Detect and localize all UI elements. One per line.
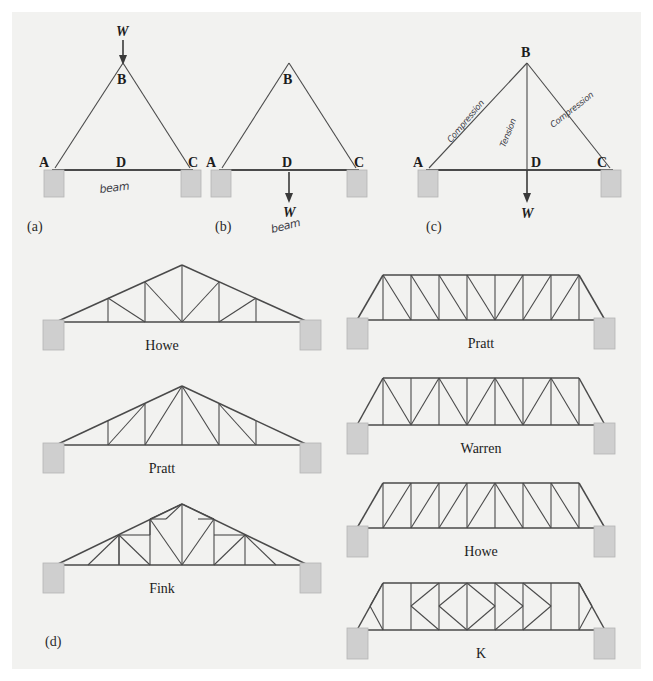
k-bridge-support-right — [594, 628, 615, 659]
panel-b: B A D C W beam (b) — [206, 63, 367, 236]
panel-a-label-a: A — [39, 155, 50, 170]
panel-c-load-arrow — [523, 170, 531, 203]
warren-bridge-label: Warren — [461, 441, 502, 456]
panel-b-label-d: D — [282, 155, 292, 170]
panel-c-support-right — [601, 170, 621, 197]
panel-c-handwriting-compression-left: Compression — [445, 98, 486, 144]
pratt-roof-support-right — [300, 443, 321, 473]
k-bridge-support-left — [347, 628, 368, 659]
panel-a: W B A D C beam (a) — [27, 24, 201, 235]
panel-b-label-b: B — [283, 72, 292, 87]
roof-truss-howe: Howe — [43, 265, 321, 353]
panel-a-member-ab — [55, 63, 123, 168]
panel-c-label-a: A — [413, 155, 424, 170]
bridge-truss-k: K — [347, 583, 615, 661]
fink-roof-support-left — [43, 563, 64, 593]
bridge-truss-warren: Warren — [347, 378, 615, 456]
truss-figure-svg: W B A D C beam (a) B A D C W — [0, 0, 653, 681]
panel-c-member-ab — [429, 63, 527, 168]
howe-bridge-label: Howe — [464, 544, 497, 559]
panel-b-handwriting-beam: beam — [270, 216, 302, 236]
panel-b-support-left — [211, 170, 231, 197]
howe-roof-top-chord-left — [56, 265, 182, 322]
k-bridge-label: K — [476, 646, 486, 661]
warren-bridge-support-right — [594, 423, 615, 454]
panel-b-member-bc — [289, 63, 356, 168]
panel-c-label-c: C — [597, 155, 607, 170]
panel-c-tag: (c) — [426, 219, 442, 235]
panel-c-label-w: W — [521, 206, 535, 221]
panel-b-tag: (b) — [215, 219, 232, 235]
roof-truss-fink: Fink — [43, 504, 321, 596]
panel-a-label-b: B — [117, 72, 126, 87]
panel-c-label-b: B — [521, 45, 530, 60]
panel-b-support-right — [347, 170, 367, 197]
panel-a-member-bc — [123, 63, 190, 168]
bridge-truss-pratt: Pratt — [347, 275, 615, 351]
figure-root: W B A D C beam (a) B A D C W — [0, 0, 653, 681]
pratt-bridge-support-right — [594, 318, 615, 349]
panel-c-handwriting-compression-right: Compression — [548, 90, 595, 130]
pratt-bridge-label: Pratt — [468, 336, 495, 351]
panel-a-label-c: C — [188, 155, 198, 170]
panel-b-load-arrow — [285, 172, 293, 203]
panel-a-support-left — [44, 170, 64, 197]
panel-a-handwriting-beam: beam — [99, 179, 130, 196]
panel-d-tag: (d) — [45, 634, 62, 650]
pratt-roof-support-left — [43, 443, 64, 473]
roof-truss-pratt: Pratt — [43, 386, 321, 476]
panel-c: B A D C W Compression Tension Compressio… — [413, 45, 621, 235]
panel-a-support-right — [181, 170, 201, 197]
panel-a-label-w: W — [116, 24, 130, 39]
bridge-truss-howe: Howe — [347, 483, 615, 559]
panel-c-handwriting-tension: Tension — [498, 117, 519, 149]
howe-bridge-support-right — [594, 526, 615, 557]
panel-b-member-ab — [222, 63, 289, 168]
howe-roof-label: Howe — [145, 338, 178, 353]
panel-c-label-d: D — [531, 155, 541, 170]
panel-a-tag: (a) — [27, 219, 43, 235]
pratt-bridge-support-left — [347, 318, 368, 349]
panel-b-label-c: C — [354, 155, 364, 170]
panel-b-label-a: A — [206, 155, 217, 170]
fink-roof-label: Fink — [149, 581, 175, 596]
pratt-roof-label: Pratt — [149, 461, 176, 476]
howe-roof-support-right — [300, 320, 321, 350]
howe-roof-top-chord-right — [182, 265, 308, 322]
panel-a-label-d: D — [116, 155, 126, 170]
panel-a-load-arrow — [119, 40, 127, 65]
howe-roof-support-left — [43, 320, 64, 350]
fink-roof-support-right — [300, 563, 321, 593]
howe-bridge-support-left — [347, 526, 368, 557]
warren-bridge-support-left — [347, 423, 368, 454]
panel-c-support-left — [418, 170, 438, 197]
